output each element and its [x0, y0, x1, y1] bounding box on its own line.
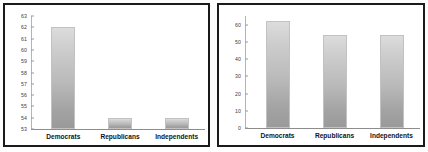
chart-panel-full: 6050403020100 DemocratsRepublicansIndepe…: [217, 3, 425, 147]
chart-panel-truncated: 6362616059585756555453 DemocratsRepublic…: [3, 3, 210, 147]
y-tick-label: 54: [21, 115, 27, 121]
bar: [323, 35, 347, 128]
y-tick-mark: [245, 41, 248, 42]
y-tick-mark: [31, 117, 34, 118]
y-tick-mark: [31, 38, 34, 39]
y-tick-mark: [31, 49, 34, 50]
figure-sheet: 6362616059585756555453 DemocratsRepublic…: [0, 0, 428, 152]
y-tick-mark: [31, 95, 34, 96]
y-tick-label: 56: [21, 92, 27, 98]
y-tick-mark: [245, 93, 248, 94]
y-tick-label: 53: [21, 126, 27, 132]
y-tick-mark: [31, 106, 34, 107]
y-tick-label: 61: [21, 36, 27, 42]
category-label: Republicans: [315, 132, 354, 139]
y-tick-label: 30: [235, 73, 241, 79]
y-tick-label: 63: [21, 13, 27, 19]
x-axis-baseline-full: [245, 128, 420, 129]
y-tick-mark: [245, 110, 248, 111]
bar: [165, 118, 189, 129]
category-label: Democrats: [46, 133, 80, 140]
x-axis-baseline-truncated: [31, 129, 205, 130]
y-tick-label: 50: [235, 39, 241, 45]
category-label: Democrats: [260, 132, 294, 139]
category-label: Independents: [155, 133, 198, 140]
y-tick-mark: [31, 61, 34, 62]
y-tick-label: 60: [235, 22, 241, 28]
bar: [380, 35, 404, 128]
y-tick-label: 55: [21, 103, 27, 109]
y-tick-label: 0: [238, 125, 241, 131]
category-label: Independents: [370, 132, 413, 139]
y-tick-label: 40: [235, 56, 241, 62]
y-tick-mark: [31, 129, 34, 130]
y-tick-label: 20: [235, 91, 241, 97]
y-tick-mark: [245, 76, 248, 77]
y-tick-mark: [31, 83, 34, 84]
bar: [108, 118, 132, 129]
plot-area-truncated: 6362616059585756555453 DemocratsRepublic…: [5, 5, 208, 145]
y-tick-mark: [245, 128, 248, 129]
y-tick-label: 58: [21, 70, 27, 76]
y-tick-label: 59: [21, 58, 27, 64]
y-tick-mark: [31, 27, 34, 28]
y-tick-label: 62: [21, 24, 27, 30]
plot-area-full: 6050403020100 DemocratsRepublicansIndepe…: [219, 5, 423, 145]
category-label: Republicans: [100, 133, 139, 140]
bar: [51, 27, 75, 129]
y-tick-mark: [31, 72, 34, 73]
y-tick-label: 57: [21, 81, 27, 87]
y-tick-label: 60: [21, 47, 27, 53]
bar: [266, 21, 290, 128]
y-tick-mark: [31, 16, 34, 17]
y-tick-label: 10: [235, 108, 241, 114]
y-tick-mark: [245, 59, 248, 60]
y-axis-truncated: 6362616059585756555453: [9, 5, 31, 145]
y-tick-mark: [245, 24, 248, 25]
y-axis-full: 6050403020100: [223, 5, 245, 145]
